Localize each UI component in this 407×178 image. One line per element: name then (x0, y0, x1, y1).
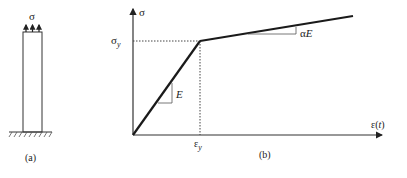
x-axis-label: ε(t) (371, 119, 385, 131)
elastic-slope-triangle (158, 83, 172, 103)
elastic-branch (133, 41, 200, 135)
load-arrows-icon (26, 25, 39, 32)
y-axis-label: σ (139, 6, 145, 18)
ground-hatch-icon (9, 132, 52, 137)
panel-b-stress-strain-chart: σ ε(t) E αE σy εy (b) (111, 6, 385, 161)
panel-a-bar-figure: σ (a) (9, 10, 52, 164)
diagram-canvas: σ (a) σ ε(t) E αE (0, 0, 407, 178)
yield-strain-label: εy (194, 138, 202, 152)
load-label: σ (29, 10, 35, 22)
bar (23, 32, 42, 132)
elastic-slope-label: E (175, 88, 183, 100)
caption-a: (a) (25, 152, 36, 164)
hardening-slope-label: αE (300, 27, 313, 39)
yield-stress-label: σy (111, 34, 121, 49)
caption-b: (b) (259, 149, 271, 161)
hardening-branch (200, 16, 353, 41)
